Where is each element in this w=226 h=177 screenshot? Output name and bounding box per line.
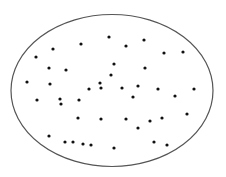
point-dot (165, 143, 168, 146)
point-dot (136, 126, 139, 129)
point-dot (107, 35, 110, 38)
point-dot (59, 102, 62, 105)
point-dot (71, 140, 74, 143)
point-dot (143, 66, 146, 69)
point-dot (64, 68, 67, 71)
point-dot (35, 98, 38, 101)
point-dot (77, 98, 80, 101)
point-dot (112, 62, 115, 65)
point-dot (112, 146, 115, 149)
point-dot (79, 42, 82, 45)
point-dot (152, 140, 155, 143)
point-dot (47, 134, 50, 137)
point-dot (131, 95, 134, 98)
point-dot (173, 94, 176, 97)
point-dot (160, 116, 163, 119)
point-dot (99, 117, 102, 120)
point-dot (142, 38, 145, 41)
point-dot (156, 87, 159, 90)
point-dot (181, 50, 184, 53)
point-dot (87, 87, 90, 90)
diagram-canvas (0, 0, 226, 177)
point-dot (162, 51, 165, 54)
point-dot (124, 44, 127, 47)
point-dot (51, 47, 54, 50)
point-dot (34, 55, 37, 58)
point-dot (89, 143, 92, 146)
points-group (25, 35, 195, 149)
point-dot (98, 81, 101, 84)
point-dot (124, 117, 127, 120)
point-dot (47, 66, 50, 69)
point-dot (76, 116, 79, 119)
point-dot (99, 86, 102, 89)
ellipse-point-diagram (0, 0, 226, 177)
point-dot (136, 84, 139, 87)
point-dot (192, 87, 195, 90)
point-dot (63, 140, 66, 143)
point-dot (25, 80, 28, 83)
point-dot (109, 73, 112, 76)
point-dot (185, 112, 188, 115)
point-dot (58, 97, 61, 100)
boundary-ellipse (11, 15, 213, 167)
point-dot (48, 82, 51, 85)
point-dot (148, 119, 151, 122)
point-dot (81, 142, 84, 145)
point-dot (120, 86, 123, 89)
